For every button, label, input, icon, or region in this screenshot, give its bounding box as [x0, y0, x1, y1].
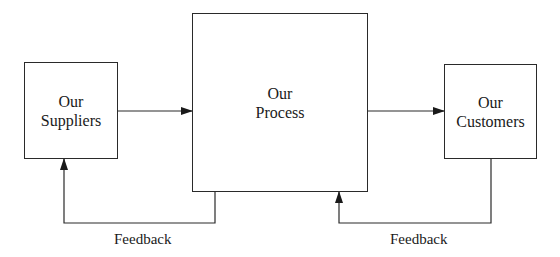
process-flow-diagram: Our Suppliers Our Process Our Customers … — [0, 0, 560, 257]
node-our-suppliers: Our Suppliers — [24, 62, 118, 159]
node-suppliers-line2: Suppliers — [41, 111, 101, 130]
node-our-process: Our Process — [192, 13, 368, 192]
node-process-line2: Process — [256, 103, 305, 122]
feedback-label-left: Feedback — [114, 231, 171, 248]
node-customers-line1: Our — [478, 93, 503, 112]
node-process-line1: Our — [268, 84, 293, 103]
node-our-customers: Our Customers — [444, 64, 537, 159]
feedback-label-right: Feedback — [390, 231, 447, 248]
node-customers-line2: Customers — [456, 112, 524, 131]
node-suppliers-line1: Our — [59, 92, 84, 111]
